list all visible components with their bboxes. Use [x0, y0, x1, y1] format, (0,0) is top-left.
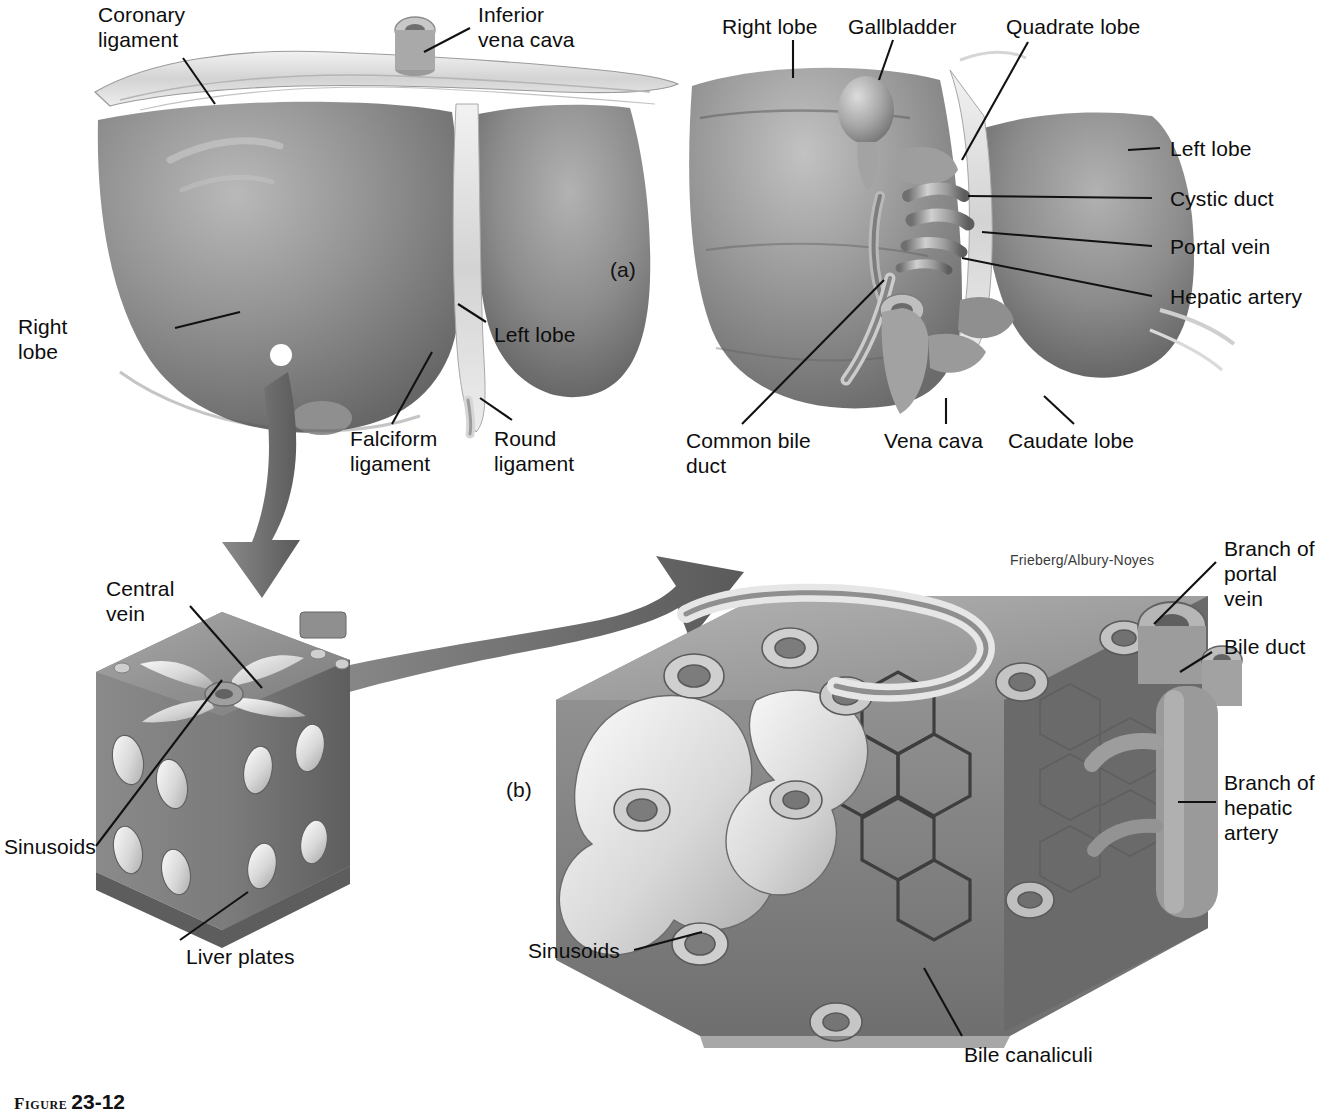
label-bile-canaliculi: Bile canaliculi	[964, 1042, 1093, 1067]
label-liver-plates: Liver plates	[186, 944, 295, 969]
label-hepatic-artery: Hepatic artery	[1170, 284, 1302, 309]
label-falciform-ligament: Falciform ligament	[350, 426, 437, 476]
liver-inferior-artwork	[689, 52, 1234, 414]
label-gallbladder: Gallbladder	[848, 14, 957, 39]
label-branch-of-hepatic-artery: Branch of hepatic artery	[1224, 770, 1315, 845]
label-central-vein: Central vein	[106, 576, 174, 626]
label-common-bile-duct: Common bile duct	[686, 428, 811, 478]
label-branch-of-portal-vein: Branch of portal vein	[1224, 536, 1315, 611]
liver-anterior-artwork	[95, 17, 678, 435]
label-inferior-vena-cava: Inferior vena cava	[478, 2, 575, 52]
label-quadrate-lobe: Quadrate lobe	[1006, 14, 1140, 39]
liver-lobule-artwork	[96, 612, 350, 948]
leader-lines	[96, 28, 1216, 1036]
liver-anatomy-figure: Coronary ligament Inferior vena cava Rig…	[0, 0, 1337, 1114]
figure-caption-word: Figure	[14, 1094, 67, 1113]
label-sinusoids-detail: Sinusoids	[528, 938, 620, 963]
label-round-ligament: Round ligament	[494, 426, 574, 476]
figure-caption-number: 23-12	[71, 1090, 125, 1113]
label-portal-vein: Portal vein	[1170, 234, 1270, 259]
label-coronary-ligament: Coronary ligament	[98, 2, 185, 52]
label-sinusoids-lobule: Sinusoids	[4, 834, 96, 859]
figure-caption: Figure 23-12	[14, 1090, 125, 1114]
label-left-lobe-inferior: Left lobe	[1170, 136, 1251, 161]
magnification-arrow-right	[318, 556, 744, 700]
label-left-lobe-anterior: Left lobe	[494, 322, 575, 347]
label-cystic-duct: Cystic duct	[1170, 186, 1274, 211]
label-caudate-lobe: Caudate lobe	[1008, 428, 1134, 453]
label-bile-duct: Bile duct	[1224, 634, 1305, 659]
label-vena-cava: Vena cava	[884, 428, 983, 453]
artist-credit: Frieberg/Albury-Noyes	[1010, 552, 1154, 568]
label-right-lobe-inferior: Right lobe	[722, 14, 818, 39]
magnification-arrow-left	[222, 372, 300, 598]
label-right-lobe-anterior: Right lobe	[18, 314, 68, 364]
panel-marker-a: (a)	[610, 258, 636, 282]
panel-marker-b: (b)	[506, 778, 532, 802]
lobule-detail-artwork	[556, 593, 1242, 1048]
